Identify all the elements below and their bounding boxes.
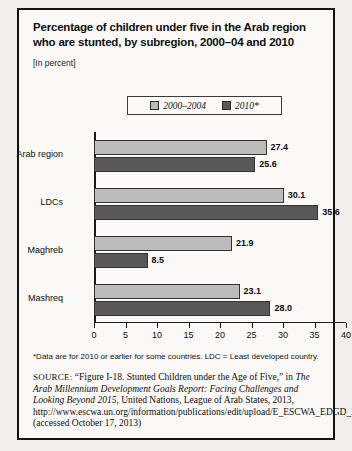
bar-mashreq-2010 — [94, 301, 270, 316]
x-axis-tick-25 — [252, 323, 253, 328]
source-label: SOURCE: — [33, 372, 72, 382]
figure-page: Percentage of children under five in the… — [0, 0, 352, 451]
bar-ldcs-2000-2004 — [94, 188, 284, 203]
x-axis-tick-label-30: 30 — [278, 330, 288, 340]
bar-value-arab-region-2000-2004: 27.4 — [271, 140, 289, 155]
bar-value-maghreb-2000-2004: 21.9 — [236, 236, 254, 251]
x-axis-tick-5 — [126, 323, 127, 328]
bar-ldcs-2010 — [94, 205, 318, 220]
bar-group-arab-region: Arab region 27.4 25.6 — [94, 140, 346, 176]
category-label-maghreb: Maghreb — [0, 245, 63, 256]
x-axis: 0510152025303540 — [94, 322, 346, 329]
x-axis-tick-15 — [189, 323, 190, 328]
bar-arab-region-2000-2004 — [94, 140, 267, 155]
x-axis-tick-label-20: 20 — [215, 330, 225, 340]
legend-swatch-icon-2000-2004 — [150, 101, 159, 110]
legend-label-0: 2000–2004 — [163, 101, 206, 111]
bar-value-maghreb-2010: 8.5 — [152, 253, 165, 268]
x-axis-tick-30 — [283, 323, 284, 328]
figure-footnote: *Data are for 2010 or earlier for some c… — [33, 352, 325, 362]
x-axis-tick-0 — [94, 323, 95, 328]
x-axis-tick-label-5: 5 — [123, 330, 128, 340]
x-axis-tick-35 — [315, 323, 316, 328]
category-label-mashreq: Mashreq — [0, 293, 63, 304]
x-axis-tick-20 — [220, 323, 221, 328]
bar-value-mashreq-2010: 28.0 — [274, 301, 292, 316]
chart-legend: 2000–2004 2010* — [127, 96, 282, 115]
source-part-1: “Figure I-18. Stunted Children under the… — [72, 372, 295, 382]
bar-mashreq-2000-2004 — [94, 284, 240, 299]
figure-frame: Percentage of children under five in the… — [17, 8, 335, 440]
bar-value-ldcs-2000-2004: 30.1 — [288, 188, 306, 203]
legend-item-0: 2000–2004 — [150, 101, 206, 111]
x-axis-tick-label-10: 10 — [152, 330, 162, 340]
category-label-ldcs: LDCs — [0, 197, 63, 208]
bar-group-maghreb: Maghreb 21.9 8.5 — [94, 236, 346, 272]
figure-source: SOURCE: “Figure I-18. Stunted Children u… — [33, 372, 325, 430]
x-axis-tick-label-0: 0 — [91, 330, 96, 340]
bar-value-arab-region-2010: 25.6 — [259, 157, 277, 172]
x-axis-tick-label-15: 15 — [183, 330, 193, 340]
bar-value-ldcs-2010: 35.6 — [322, 205, 340, 220]
x-axis-tick-label-25: 25 — [246, 330, 256, 340]
legend-swatch-icon-2010 — [222, 101, 231, 110]
legend-label-1: 2010* — [235, 101, 259, 111]
x-axis-tick-40 — [346, 323, 347, 328]
bar-group-ldcs: LDCs 30.1 35.6 — [94, 188, 346, 224]
category-label-arab-region: Arab region — [0, 149, 63, 160]
bar-value-mashreq-2000-2004: 23.1 — [244, 284, 262, 299]
legend-item-1: 2010* — [222, 101, 259, 111]
bar-maghreb-2010 — [94, 253, 148, 268]
bar-group-mashreq: Mashreq 23.1 28.0 — [94, 284, 346, 320]
page-title: Percentage of children under five in the… — [33, 20, 323, 49]
chart-plot-area: Arab region 27.4 25.6 LDCs 30.1 35.6 Mag… — [94, 132, 346, 322]
x-axis-tick-label-35: 35 — [309, 330, 319, 340]
x-axis-tick-10 — [157, 323, 158, 328]
bar-maghreb-2000-2004 — [94, 236, 232, 251]
x-axis-tick-label-40: 40 — [341, 330, 351, 340]
figure-units-note: [In percent] — [33, 58, 76, 68]
bar-arab-region-2010 — [94, 157, 255, 172]
